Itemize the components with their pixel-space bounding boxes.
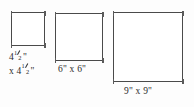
corner-tick-bottom-right-icon (44, 43, 45, 48)
square-outline-small (11, 12, 45, 46)
caption-square-small: 412" x 412" (9, 50, 35, 77)
corner-tick-bottom-right-icon (182, 79, 183, 84)
caption-unit-mark: " (30, 66, 34, 76)
caption-square-medium: 6" x 6" (58, 64, 86, 76)
corner-tick-bottom-right-icon (102, 58, 103, 63)
square-outline-medium (55, 13, 103, 61)
corner-tick-bottom-left-icon (55, 58, 56, 63)
corner-tick-bottom-left-icon (11, 43, 12, 48)
fraction-one-half-icon: 12 (14, 50, 23, 60)
caption-prefix: x 4 (9, 66, 21, 76)
caption-square-large: 9" x 9" (124, 86, 152, 98)
caption-line-2: x 412" (9, 64, 35, 78)
corner-tick-bottom-left-icon (113, 79, 114, 84)
square-outline-large (113, 12, 183, 82)
figure-canvas: 412" x 412" 6" x 6" 9" x 9" (0, 0, 194, 107)
fraction-denominator: 2 (26, 66, 29, 78)
fraction-one-half-icon: 12 (21, 64, 30, 74)
